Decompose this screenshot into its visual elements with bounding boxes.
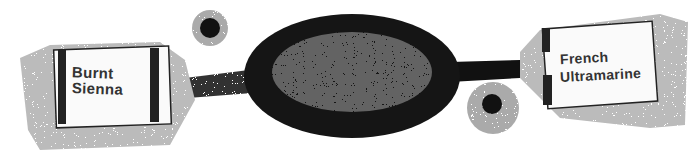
left-tube-label-line2: Sienna <box>72 79 124 98</box>
right-tube-label-line1: French <box>560 49 609 68</box>
